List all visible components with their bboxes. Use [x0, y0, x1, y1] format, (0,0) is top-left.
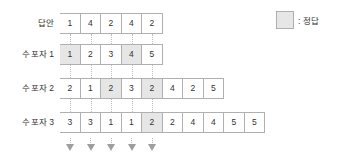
answer-cell: 4 [122, 44, 143, 65]
answer-cell: 1 [60, 44, 81, 65]
answer-cell: 3 [122, 78, 143, 99]
arrow-down-icon [107, 138, 116, 152]
row-label: 수포자 3 [22, 112, 60, 133]
answer-cell: 3 [81, 112, 102, 133]
answer-cell: 3 [101, 44, 122, 65]
legend-label: : 정답 [298, 14, 319, 26]
answer-cell: 2 [101, 13, 122, 34]
answer-cell: 2 [101, 78, 122, 99]
answer-cell: 2 [60, 78, 81, 99]
column-connector-line [132, 65, 133, 78]
answer-cell: 2 [142, 13, 163, 34]
answer-cell: 2 [142, 112, 163, 133]
row-label: 수포자 1 [22, 44, 60, 65]
answer-cell: 2 [163, 112, 184, 133]
column-connector-line [91, 99, 92, 112]
answer-cell: 5 [204, 78, 225, 99]
arrow-head [148, 144, 156, 151]
answer-row: 답안 14242 [60, 13, 163, 34]
column-connector-line [91, 34, 92, 44]
arrow-down-icon [127, 138, 136, 152]
row-label: 답안 [38, 13, 60, 34]
arrow-head [66, 144, 74, 151]
answer-cell: 1 [101, 112, 122, 133]
answer-cell: 2 [142, 78, 163, 99]
column-connector-line [152, 65, 153, 78]
arrow-down-icon [66, 138, 75, 152]
answer-cell: 1 [60, 13, 81, 34]
answer-cell: 4 [183, 112, 204, 133]
column-connector-line [111, 99, 112, 112]
column-connector-line [132, 34, 133, 44]
column-connector-line [70, 99, 71, 112]
row-label: 수포자 2 [22, 78, 60, 99]
answer-cell: 1 [122, 112, 143, 133]
arrow-head [87, 144, 95, 151]
legend: : 정답 [276, 11, 319, 29]
correct-answer-swatch [276, 11, 294, 29]
arrow-head [128, 144, 136, 151]
column-connector-line [70, 65, 71, 78]
answer-cell: 5 [142, 44, 163, 65]
answer-cell: 4 [163, 78, 184, 99]
quiz-comparison-figure: 답안 14242 수포자 1 12345 수포자 2 21232425 수포자 … [0, 0, 343, 168]
column-connector-line [111, 34, 112, 44]
answer-cell: 2 [183, 78, 204, 99]
column-connector-line [111, 65, 112, 78]
column-connector-line [91, 65, 92, 78]
student2-row: 수포자 2 21232425 [60, 78, 224, 99]
student3-row: 수포자 3 3311224455 [60, 112, 265, 133]
answer-cell: 2 [81, 44, 102, 65]
answer-cell: 3 [60, 112, 81, 133]
arrow-head [107, 144, 115, 151]
answer-cell: 5 [245, 112, 266, 133]
arrow-down-icon [148, 138, 157, 152]
arrow-down-icon [86, 138, 95, 152]
column-connector-line [132, 99, 133, 112]
answer-cell: 4 [204, 112, 225, 133]
column-connector-line [152, 34, 153, 44]
answer-cell: 4 [122, 13, 143, 34]
answer-cell: 1 [81, 78, 102, 99]
column-connector-line [152, 99, 153, 112]
student1-row: 수포자 1 12345 [60, 44, 163, 65]
answer-cell: 5 [224, 112, 245, 133]
column-connector-line [70, 34, 71, 44]
answer-cell: 4 [81, 13, 102, 34]
